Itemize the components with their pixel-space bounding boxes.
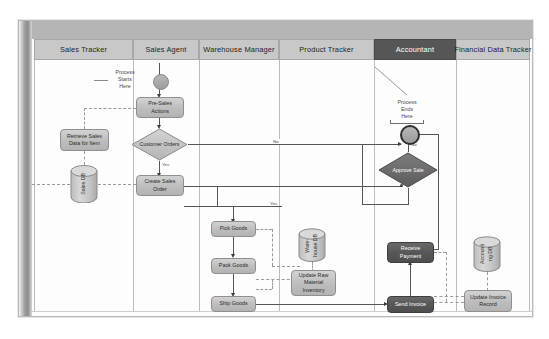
connector — [233, 274, 234, 295]
connector — [217, 206, 282, 207]
start-event-circle[interactable] — [153, 74, 169, 90]
task-pick-goods[interactable]: Pick Goods — [211, 221, 256, 237]
annotation-bracket — [390, 120, 424, 124]
dashed-connector — [434, 296, 464, 297]
dashed-connector — [256, 289, 272, 290]
diagram-top-band — [19, 21, 532, 39]
flow-label-yes-approve-sale: Yes — [269, 201, 278, 206]
diagram-left-gutter — [19, 21, 32, 316]
dashed-connector — [434, 252, 446, 253]
gateway-customer-orders[interactable]: Customer Orders — [131, 128, 188, 161]
datastore-label: Ware- house DB — [298, 228, 326, 262]
lane-header-product-tracker[interactable]: Product Tracker — [279, 39, 374, 60]
dashed-connector — [272, 279, 273, 289]
connector — [362, 144, 363, 204]
gateway-approve-sale[interactable]: Approve Sale — [378, 152, 438, 188]
dashed-connector — [272, 229, 273, 266]
datastore-label: Accounti ng DB — [473, 236, 501, 272]
connector — [362, 204, 409, 205]
end-event-circle[interactable] — [400, 125, 420, 145]
dashed-connector — [487, 272, 488, 291]
task-receive-payment[interactable]: Receive Payment — [387, 242, 434, 263]
datastore-warehouse-db[interactable]: Ware- house DB — [298, 228, 326, 262]
connector — [188, 144, 401, 145]
connector — [256, 304, 386, 305]
lane-header-sales-agent[interactable]: Sales Agent — [133, 39, 199, 60]
datastore-accounting-db[interactable]: Accounti ng DB — [473, 236, 501, 272]
annotation-process-starts-here: Process Starts Here — [108, 69, 142, 90]
dashed-connector — [32, 184, 70, 185]
lane-separator — [529, 60, 530, 312]
task-update-invoice-record[interactable]: Update Invoice Record — [464, 290, 512, 312]
task-pack-goods[interactable]: Pack Goods — [211, 258, 256, 274]
datastore-label: Sales DB — [70, 165, 98, 203]
dashed-connector — [434, 302, 464, 303]
dashed-connector — [446, 252, 447, 302]
dashed-connector — [84, 108, 136, 109]
screenshot-root: Sales Tracker Sales Agent Warehouse Mana… — [0, 0, 549, 339]
task-retrieve-sales-data[interactable]: Retrieve Sales Data for Item — [60, 129, 109, 151]
connector — [438, 134, 439, 249]
annotation-process-ends-here: Process Ends Here — [390, 99, 424, 120]
gateway-label: Approve Sale — [378, 152, 438, 188]
flow-label-no-customer-orders: No — [272, 139, 280, 144]
dashed-connector — [272, 266, 300, 267]
connector — [408, 188, 409, 204]
lane-separator — [456, 60, 457, 312]
task-update-raw-material-inventory[interactable]: Update Raw Material Inventory — [291, 270, 336, 296]
diagram-paper: Sales Tracker Sales Agent Warehouse Mana… — [18, 20, 533, 317]
dashed-connector — [84, 151, 85, 165]
lane-header-warehouse-manager[interactable]: Warehouse Manager — [199, 39, 279, 60]
lane-header-financial-data-tracker[interactable]: Financial Data Tracker — [456, 39, 530, 60]
connector — [184, 206, 218, 207]
flow-label-yes-customer-orders: Yes — [161, 162, 170, 167]
task-ship-goods[interactable]: Ship Goods — [211, 296, 256, 312]
gateway-label: Customer Orders — [131, 128, 188, 161]
task-pre-sales-actions[interactable]: Pre-Sales Actions — [136, 97, 184, 118]
dashed-connector — [98, 184, 136, 185]
datastore-sales-db[interactable]: Sales DB — [70, 165, 98, 203]
lane-separator — [133, 60, 134, 312]
dashed-connector — [84, 108, 85, 129]
connector — [217, 186, 218, 206]
lane-header-accountant[interactable]: Accountant — [374, 39, 456, 60]
connector — [410, 263, 411, 296]
lane-separator — [34, 60, 35, 312]
lane-bottom-border — [32, 311, 532, 312]
dashed-connector — [256, 229, 272, 230]
diagram-canvas: Sales Tracker Sales Agent Warehouse Mana… — [32, 39, 532, 316]
lane-header-sales-tracker[interactable]: Sales Tracker — [34, 39, 133, 60]
annotation-leader-line — [94, 80, 108, 81]
task-create-sales-order[interactable]: Create Sales Order — [136, 175, 184, 196]
task-send-invoice[interactable]: Send Invoice — [387, 296, 434, 313]
annotation-leader-diagonal — [375, 67, 407, 95]
arrowhead — [398, 142, 402, 146]
